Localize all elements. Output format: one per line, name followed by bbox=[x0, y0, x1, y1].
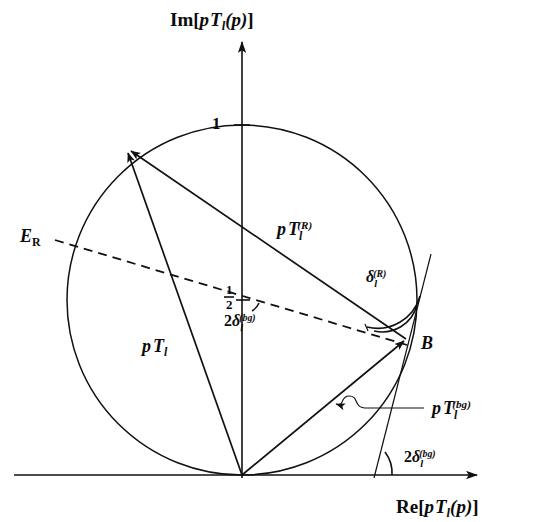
y-axis-label-func: Im bbox=[170, 9, 193, 30]
resonance-amplitude-vector bbox=[131, 151, 406, 339]
resonance-energy-sub: R bbox=[32, 235, 41, 249]
resonance-amplitude-sub: l bbox=[299, 229, 303, 243]
resonance-energy-symbol: E bbox=[19, 226, 32, 246]
half-tick-numerator: 1 bbox=[226, 282, 233, 297]
x-axis-label-p: p bbox=[422, 496, 434, 517]
resonance-phase-angle-arc bbox=[367, 296, 420, 328]
bg-axis-sub: l bbox=[420, 458, 423, 469]
tangent-line-at-b bbox=[374, 254, 431, 478]
x-axis-label-close: ] bbox=[472, 496, 478, 517]
resonance-phase-angle-label: δl(R) bbox=[366, 268, 386, 289]
x-axis-label: Re[pTl(p)] bbox=[396, 496, 479, 520]
resonance-phase-sub: l bbox=[374, 278, 377, 289]
background-amplitude-sub: l bbox=[454, 408, 458, 422]
x-axis-label-arg: (p) bbox=[450, 496, 472, 518]
argand-diagram-figure: Im[pTl(p)] Re[pTl(p)] 1 1 2 pTl pTl(R) p… bbox=[0, 0, 539, 522]
background-phase-angle-center-arc bbox=[252, 303, 259, 311]
bg-axis-coef: 2 bbox=[404, 448, 412, 465]
background-phase-angle-axis-label: 2δl(bg) bbox=[404, 448, 436, 469]
bg-center-sup: (bg) bbox=[239, 312, 256, 324]
background-amplitude-p: p bbox=[430, 398, 441, 418]
resonance-phase-sup: (R) bbox=[373, 268, 386, 280]
half-tick-denominator: 2 bbox=[226, 297, 233, 312]
unit-tick-label: 1 bbox=[212, 114, 221, 133]
background-amplitude-vector-label: pTl(bg) bbox=[430, 398, 471, 422]
y-axis-label-arg: (p) bbox=[225, 9, 247, 31]
point-b-label: B bbox=[420, 333, 433, 353]
total-amplitude-vector-label: pTl bbox=[140, 336, 168, 359]
resonance-amplitude-p: p bbox=[275, 219, 286, 239]
resonance-amplitude-vector-label: pTl(R) bbox=[275, 219, 312, 243]
total-amplitude-p: p bbox=[140, 336, 151, 356]
argand-diagram-canvas: Im[pTl(p)] Re[pTl(p)] 1 1 2 pTl pTl(R) p… bbox=[0, 0, 539, 522]
total-amplitude-sub: l bbox=[164, 345, 168, 359]
y-axis-label: Im[pTl(p)] bbox=[170, 9, 254, 33]
bg-axis-sup: (bg) bbox=[419, 448, 436, 460]
background-phase-angle-center-label: 2δl(bg) bbox=[224, 312, 256, 333]
half-tick-label: 1 2 bbox=[224, 282, 234, 312]
resonance-energy-label: ER bbox=[19, 226, 41, 249]
x-axis-label-func: Re bbox=[396, 496, 418, 517]
background-phase-angle-axis-arc bbox=[385, 452, 392, 475]
resonance-amplitude-sup: (R) bbox=[297, 219, 312, 232]
background-amplitude-sup: (bg) bbox=[452, 398, 471, 411]
bg-center-sub: l bbox=[240, 322, 243, 333]
bg-center-coef: 2 bbox=[224, 312, 232, 329]
y-axis-label-p: p bbox=[198, 9, 210, 30]
squiggle-leader-line bbox=[336, 396, 424, 408]
y-axis-label-close: ] bbox=[247, 9, 253, 30]
